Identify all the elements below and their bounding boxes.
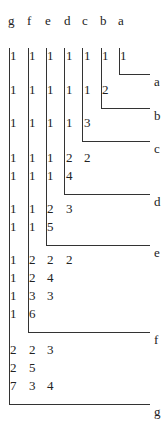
cell-value: 1 (29, 151, 36, 165)
column-header-b: b (100, 14, 107, 28)
group-close-line-e (46, 245, 150, 246)
group-close-line-c (82, 141, 150, 142)
cell-value: 1 (10, 271, 17, 285)
cell-value: 1 (10, 202, 17, 216)
cell-value: 1 (47, 49, 54, 63)
cell-value: 1 (84, 49, 91, 63)
group-close-line-a (119, 74, 150, 75)
cell-value: 5 (47, 220, 54, 234)
cell-value: 4 (66, 169, 73, 183)
cell-value: 1 (66, 83, 73, 97)
cell-value: 1 (10, 169, 17, 183)
cell-value: 1 (29, 169, 36, 183)
cell-value: 1 (29, 220, 36, 234)
cell-value: 1 (102, 49, 109, 63)
column-header-a: a (118, 14, 124, 28)
group-label-c: c (154, 142, 160, 156)
cell-value: 3 (47, 343, 54, 357)
group-line-c (82, 48, 83, 141)
group-close-line-g (9, 404, 150, 405)
cell-value: 5 (29, 361, 36, 375)
cell-value: 2 (66, 253, 73, 267)
cell-value: 2 (47, 202, 54, 216)
cell-value: 2 (47, 253, 54, 267)
group-label-b: b (154, 109, 161, 123)
column-header-f: f (27, 14, 31, 28)
cell-value: 3 (29, 379, 36, 393)
cell-value: 2 (29, 253, 36, 267)
cell-value: 1 (10, 83, 17, 97)
group-close-line-d (64, 194, 150, 195)
cell-value: 7 (10, 379, 17, 393)
cell-value: 1 (84, 83, 91, 97)
cell-value: 1 (10, 49, 17, 63)
group-label-a: a (154, 75, 160, 89)
group-label-e: e (154, 246, 160, 260)
cell-value: 1 (10, 289, 17, 303)
cell-value: 1 (47, 83, 54, 97)
cell-value: 1 (47, 169, 54, 183)
cell-value: 2 (29, 271, 36, 285)
cell-value: 2 (66, 151, 73, 165)
cell-value: 4 (47, 271, 54, 285)
cell-value: 2 (10, 361, 17, 375)
cell-value: 1 (66, 49, 73, 63)
group-close-line-f (28, 332, 150, 333)
cell-value: 1 (10, 253, 17, 267)
column-header-d: d (64, 14, 71, 28)
cell-value: 6 (29, 307, 36, 321)
cell-value: 1 (29, 49, 36, 63)
cell-value: 1 (29, 116, 36, 130)
cell-value: 3 (29, 289, 36, 303)
cell-value: 1 (10, 116, 17, 130)
cell-value: 1 (10, 307, 17, 321)
cell-value: 1 (47, 151, 54, 165)
cell-value: 3 (84, 116, 91, 130)
cell-value: 1 (120, 49, 127, 63)
group-label-f: f (154, 333, 158, 347)
column-header-g: g (8, 14, 15, 28)
group-line-d (64, 48, 65, 194)
group-label-g: g (154, 405, 161, 419)
cell-value: 1 (47, 116, 54, 130)
cell-value: 1 (10, 220, 17, 234)
group-close-line-b (101, 108, 150, 109)
cell-value: 1 (66, 116, 73, 130)
cell-value: 3 (66, 202, 73, 216)
cell-value: 3 (47, 289, 54, 303)
cell-value: 1 (29, 83, 36, 97)
cell-value: 2 (102, 83, 109, 97)
cell-value: 1 (29, 202, 36, 216)
cell-value: 2 (10, 343, 17, 357)
group-line-b (101, 48, 102, 108)
cell-value: 2 (29, 343, 36, 357)
cell-value: 1 (10, 151, 17, 165)
group-label-d: d (154, 195, 161, 209)
cell-value: 4 (47, 379, 54, 393)
column-header-e: e (45, 14, 51, 28)
column-header-c: c (82, 14, 88, 28)
cell-value: 2 (84, 151, 91, 165)
